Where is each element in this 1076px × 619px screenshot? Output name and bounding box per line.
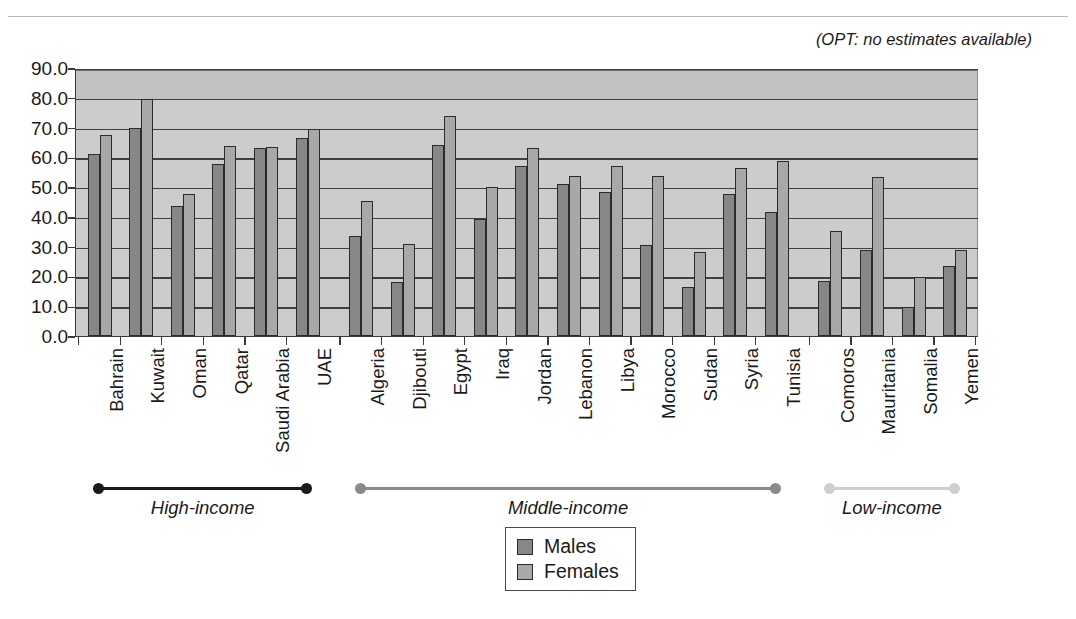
x-axis-tick-mark [630,337,631,345]
x-axis-tick-mark [809,337,810,345]
x-axis-tick-mark [161,337,162,345]
bar-group [465,69,507,336]
x-axis-category-label: Sudan [700,348,722,402]
x-axis-category-label: Oman [189,348,211,398]
bar-female [735,168,747,336]
x-axis-category-label: Morocco [658,348,680,419]
income-group-endpoint-dot [355,483,366,494]
y-axis-tick-mark [68,158,75,159]
legend-label-males: Males [544,535,596,558]
bar-group [79,69,121,336]
income-group-endpoint-dot [949,483,960,494]
x-axis-tick-mark [339,337,340,345]
bar-male [599,192,611,336]
bar-male [902,307,914,336]
bar-male [296,138,308,336]
bar-male [723,194,735,336]
y-axis-tick-label: 70.0 [2,118,68,140]
bar-female [955,250,967,336]
y-axis-tick-mark [68,336,75,337]
bar-male [88,154,100,336]
income-group-label: High-income [99,497,307,519]
income-group-label: Low-income [830,497,955,519]
bar-group [424,69,466,336]
bar-group [287,69,329,336]
y-axis: 0.010.020.030.040.050.060.070.080.090.0 [0,69,68,337]
x-axis-tick-mark [423,337,424,345]
bar-male [640,245,652,336]
y-axis-tick-label: 80.0 [2,88,68,110]
bar-group [548,69,590,336]
bar-female [872,177,884,336]
y-axis-tick-label: 50.0 [2,177,68,199]
y-axis-tick-label: 40.0 [2,207,68,229]
bar-group [756,69,798,336]
x-axis-category-label: Djibouti [409,348,431,410]
bar-male [432,145,444,336]
bar-group [121,69,163,336]
bar-female [569,176,581,336]
x-axis-category-label: Egypt [450,348,472,395]
income-group-label: Middle-income [360,497,776,519]
bar-male [557,184,569,336]
x-axis-tick-mark [755,337,756,345]
x-axis-tick-mark [892,337,893,345]
x-axis-category-label: Kuwait [147,348,169,404]
bar-group [673,69,715,336]
bar-female [183,194,195,336]
bar-female [694,252,706,336]
bar-group [631,69,673,336]
bar-female [914,277,926,336]
x-axis-tick-mark [78,337,79,345]
bar-male [212,164,224,336]
income-group-line [99,487,307,490]
x-axis-tick-mark [589,337,590,345]
bar-group [810,69,852,336]
bar-group [934,69,976,336]
bar-female [403,244,415,336]
legend-label-females: Females [544,560,619,583]
bar-group [893,69,935,336]
x-axis-tick-mark [120,337,121,345]
bar-male [349,236,361,336]
x-axis-category-label: Jordan [534,348,556,405]
x-axis-tick-mark [203,337,204,345]
bar-female [652,176,664,336]
x-axis-tick-mark [672,337,673,345]
x-axis-category-label: Bahrain [106,348,128,412]
x-axis-tick-mark [286,337,287,345]
x-axis-category-label: Algeria [367,348,389,406]
bar-male [391,282,403,336]
x-axis-category-label: Syria [741,348,763,390]
y-axis-tick-mark [68,187,75,188]
income-group-line [830,487,955,490]
bar-male [171,206,183,336]
bar-male [682,287,694,336]
income-group-line [360,487,776,490]
bar-female [266,147,278,336]
y-axis-tick-mark [68,277,75,278]
x-axis-tick-mark [381,337,382,345]
x-axis-category-label: Tunisia [783,348,805,407]
bar-male [860,250,872,336]
bar-group [245,69,287,336]
bar-group [590,69,632,336]
income-group-endpoint-dot [301,483,312,494]
x-axis-tick-mark [506,337,507,345]
bar-male [254,148,266,336]
y-axis-tick-mark [68,307,75,308]
y-axis-tick-mark [68,247,75,248]
bar-group [382,69,424,336]
bar-female [224,146,236,336]
y-axis-tick-mark [68,98,75,99]
x-axis-tick-mark [933,337,934,345]
chart-legend: Males Females [505,527,636,591]
bar-female [527,148,539,336]
bar-male [474,219,486,336]
plot-right-edge [977,69,978,336]
legend-item-males: Males [517,534,619,559]
x-axis-category-label: Saudi Arabia [272,348,294,453]
bar-female [777,161,789,336]
x-axis-category-label: Qatar [231,348,253,394]
y-axis-tick-mark [68,128,75,129]
